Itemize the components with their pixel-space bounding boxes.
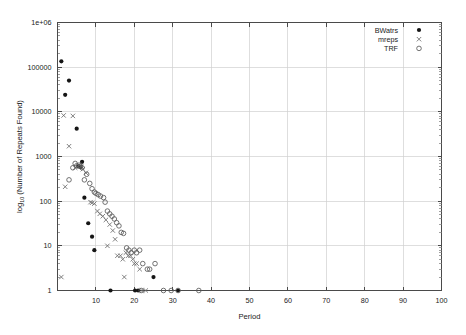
x-tick-label: 80 [361, 296, 369, 305]
y-tick-label: 1e+06 [31, 18, 51, 27]
data-point [108, 288, 112, 292]
data-point [82, 196, 86, 200]
y-axis-title: log10 (Number of Repeats Found) [15, 100, 25, 213]
y-tick-label: 1 [48, 286, 52, 295]
legend-label-trf: TRF [384, 44, 399, 53]
data-point [86, 221, 90, 225]
x-tick-label: 40 [207, 296, 215, 305]
chart-page: 102030405060708090100 110100100010000100… [0, 0, 466, 335]
x-tick-label: 100 [436, 296, 448, 305]
x-tick-label: 10 [92, 296, 100, 305]
x-tick-label: 20 [130, 296, 138, 305]
x-tick-label: 50 [246, 296, 254, 305]
y-tick-label: 100 [40, 197, 52, 206]
legend-label-bwatrs: BWatrs [375, 26, 399, 35]
data-point [75, 127, 79, 131]
y-tick-label: 1000 [36, 152, 52, 161]
data-point [92, 248, 96, 252]
scatter-plot: 102030405060708090100 110100100010000100… [0, 0, 466, 335]
data-point [417, 28, 421, 32]
data-point [151, 275, 155, 279]
x-tick-label: 60 [284, 296, 292, 305]
data-point [67, 79, 71, 83]
legend-marker-bwatrs [417, 28, 421, 32]
y-axis-title-text: log10 (Number of Repeats Found) [15, 100, 25, 213]
data-point [90, 235, 94, 239]
x-axis-title: Period [239, 312, 261, 321]
data-point [63, 93, 67, 97]
y-tick-label: 10000 [32, 107, 52, 116]
x-tick-label: 70 [322, 296, 330, 305]
y-tick-label: 10 [44, 241, 52, 250]
legend-label-mreps: mreps [378, 35, 398, 44]
x-tick-label: 30 [169, 296, 177, 305]
x-tick-label: 90 [399, 296, 407, 305]
y-tick-label: 100000 [28, 63, 52, 72]
data-point [59, 59, 63, 63]
